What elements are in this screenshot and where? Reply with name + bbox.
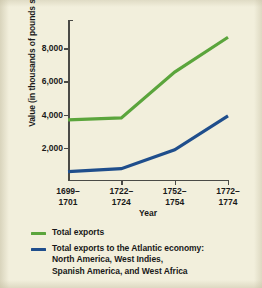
legend-swatch (31, 248, 46, 251)
x-tick-label-line: 1752– (163, 186, 187, 197)
legend-item: Total exports (31, 227, 255, 238)
x-tick-label-line: 1701 (56, 197, 80, 208)
x-tick-label-line: 1774 (216, 197, 240, 208)
x-tick-label-line: 1754 (163, 197, 187, 208)
plot-area: 2,0004,0006,0008,000 1699–17011722–17241… (68, 20, 228, 181)
legend-label-line: North America, West Indies, (52, 254, 204, 265)
series-line-atlantic-economy (68, 116, 228, 172)
x-tick (228, 180, 229, 185)
x-tick-label: 1752–1754 (163, 186, 187, 207)
legend-item: Total exports to the Atlantic economy:No… (31, 243, 255, 277)
x-tick-label-line: 1722– (110, 186, 134, 197)
y-tick-label: 4,000 (42, 109, 63, 119)
legend-label-line: Total exports to the Atlantic economy: (52, 243, 204, 254)
legend-label-line: Total exports (52, 227, 104, 238)
series-lines (68, 20, 228, 181)
x-axis-title: Year (68, 208, 228, 218)
x-tick-label: 1772–1774 (216, 186, 240, 207)
y-axis-title: Value (in thousands of pounds sterling) (27, 0, 37, 129)
x-tick-label-line: 1699– (56, 186, 80, 197)
chart-legend: Total exportsTotal exports to the Atlant… (31, 227, 255, 282)
x-tick-label: 1722–1724 (110, 186, 134, 207)
y-tick-label: 6,000 (42, 76, 63, 86)
series-line-total-exports (68, 37, 228, 120)
legend-label-line: Spanish America, and West Africa (52, 266, 204, 277)
legend-swatch (31, 232, 46, 235)
legend-label: Total exports to the Atlantic economy:No… (52, 243, 204, 277)
y-tick-label: 8,000 (42, 43, 63, 53)
x-tick-label-line: 1772– (216, 186, 240, 197)
x-tick-label: 1699–1701 (56, 186, 80, 207)
y-tick-label: 2,000 (42, 143, 63, 153)
x-tick-label-line: 1724 (110, 197, 134, 208)
chart-figure: Value (in thousands of pounds sterling) … (0, 0, 262, 288)
legend-label: Total exports (52, 227, 104, 238)
